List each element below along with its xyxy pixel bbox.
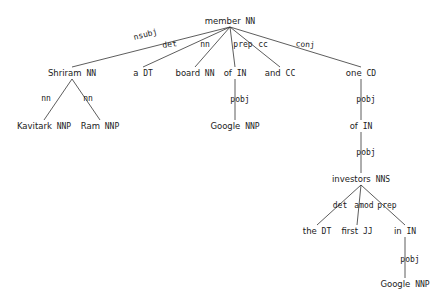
tree-node-and: and CC (265, 68, 296, 78)
node-pos-tag: IN (358, 122, 373, 131)
node-pos-tag: NNP (52, 122, 71, 131)
edge-label: nn (200, 40, 210, 49)
tree-node-kavitark: Kavitark NNP (17, 121, 71, 131)
edge-label: pobj (356, 95, 375, 104)
dependency-tree: nsubjdetnnprepccconjnnnnpobjpobjpobjdeta… (0, 0, 445, 308)
node-pos-tag: NN (241, 17, 256, 26)
node-word: investors (332, 174, 371, 184)
tree-node-one: one CD (346, 68, 376, 78)
edge-label: pobj (230, 95, 249, 104)
edge-label: pobj (356, 148, 375, 157)
node-word: Shriram (48, 68, 82, 78)
node-word: the (303, 226, 317, 236)
edge-label: nn (41, 94, 51, 103)
node-pos-tag: NNS (371, 175, 390, 184)
edge-label: prep (233, 40, 252, 49)
tree-node-first: first JJ (341, 226, 372, 236)
node-word: Kavitark (17, 121, 52, 131)
tree-node-google2: Google NNP (380, 279, 429, 289)
node-word: member (205, 16, 241, 26)
tree-node-shriram: Shriram NN (48, 68, 96, 78)
edge-label: pobj (400, 255, 419, 264)
tree-node-investors: investors NNS (332, 174, 390, 184)
edge-label: amod (354, 201, 373, 210)
node-pos-tag: NN (200, 69, 215, 78)
edge-label: nsubj (133, 27, 159, 42)
edges-layer (44, 27, 405, 278)
edge-label: conj (295, 39, 315, 49)
node-word: in (394, 226, 402, 236)
node-pos-tag: NNP (410, 280, 429, 289)
node-pos-tag: NN (82, 69, 97, 78)
tree-node-of1: of IN (224, 68, 247, 78)
node-pos-tag: NNP (100, 122, 119, 131)
edge-label: nn (83, 94, 93, 103)
node-pos-tag: CC (281, 69, 296, 78)
node-pos-tag: DT (317, 227, 332, 236)
node-word: first (341, 226, 358, 236)
tree-node-of2: of IN (350, 121, 373, 131)
node-word: Google (210, 121, 240, 131)
node-word: board (176, 68, 201, 78)
tree-node-a: a DT (133, 68, 153, 78)
node-word: one (346, 68, 362, 78)
node-word: Google (380, 279, 410, 289)
tree-node-in: in IN (394, 226, 416, 236)
node-pos-tag: NNP (240, 122, 259, 131)
node-pos-tag: JJ (358, 227, 372, 236)
node-word: and (265, 68, 281, 78)
tree-node-member: member NN (205, 16, 256, 26)
tree-node-ram: Ram NNP (81, 121, 120, 131)
node-word: Ram (81, 121, 100, 131)
edge-label: det (162, 39, 178, 50)
edge-label: prep (377, 201, 396, 210)
tree-node-the: the DT (303, 226, 332, 236)
tree-node-google1: Google NNP (210, 121, 259, 131)
tree-node-board: board NN (176, 68, 215, 78)
node-pos-tag: IN (232, 69, 247, 78)
node-pos-tag: CD (362, 69, 377, 78)
edge-label: det (333, 201, 348, 210)
node-pos-tag: DT (138, 69, 153, 78)
node-pos-tag: IN (402, 227, 417, 236)
edge-label: cc (258, 40, 268, 49)
